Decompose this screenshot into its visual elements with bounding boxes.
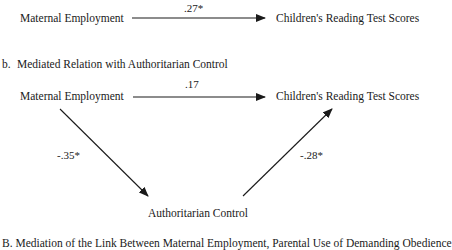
panel-a-target-node: Children's Reading Test Scores	[276, 13, 419, 25]
panel-b-mediator-node: Authoritarian Control	[148, 208, 248, 220]
panel-b-title: Mediated Relation with Authoritarian Con…	[17, 59, 228, 71]
panel-b-source-node: Maternal Employment	[20, 91, 124, 103]
panel-b-direct-coefficient: .17	[185, 79, 199, 90]
panel-b-mediator-to-target-coefficient: -.28*	[300, 150, 323, 161]
panel-a-direct-coefficient: .27*	[184, 3, 203, 14]
next-section-caption: B. Mediation of the Link Between Materna…	[2, 238, 452, 250]
panel-b-target-node: Children's Reading Test Scores	[276, 91, 419, 103]
panel-b-source-to-mediator-coefficient: -.35*	[57, 150, 80, 161]
panel-b-label: b.	[2, 59, 11, 71]
panel-a-source-node: Maternal Employment	[20, 13, 124, 25]
